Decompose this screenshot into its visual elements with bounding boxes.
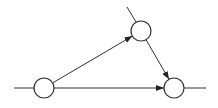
edges <box>53 36 169 88</box>
edge-b-to-c <box>146 40 169 80</box>
stub-line-b <box>127 7 136 22</box>
node-b <box>131 21 151 41</box>
nodes <box>34 21 184 98</box>
stub-lines <box>14 7 206 88</box>
directed-graph-diagram <box>0 0 218 108</box>
edge-a-to-b <box>53 36 133 83</box>
node-c <box>164 78 184 98</box>
node-a <box>34 78 54 98</box>
